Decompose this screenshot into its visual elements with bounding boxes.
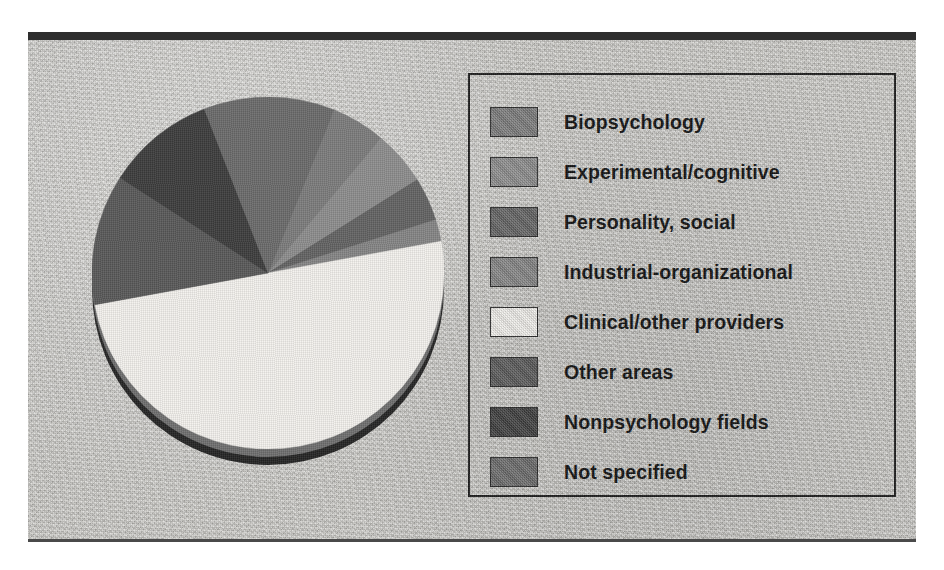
legend-swatch-icon bbox=[490, 307, 538, 337]
pie-chart bbox=[70, 75, 450, 465]
legend-swatch-icon bbox=[490, 157, 538, 187]
legend-item: Experimental/cognitive bbox=[490, 147, 884, 197]
legend: BiopsychologyExperimental/cognitivePerso… bbox=[468, 73, 896, 497]
top-rule bbox=[28, 32, 916, 40]
legend-item: Nonpsychology fields bbox=[490, 397, 884, 447]
legend-item-label: Industrial-organizational bbox=[564, 261, 793, 284]
legend-swatch-icon bbox=[490, 457, 538, 487]
legend-item-list: BiopsychologyExperimental/cognitivePerso… bbox=[490, 97, 884, 497]
legend-item-label: Clinical/other providers bbox=[564, 311, 784, 334]
legend-item-label: Experimental/cognitive bbox=[564, 161, 780, 184]
legend-item: Personality, social bbox=[490, 197, 884, 247]
legend-item-label: Personality, social bbox=[564, 211, 736, 234]
legend-item-label: Not specified bbox=[564, 461, 688, 484]
legend-item: Biopsychology bbox=[490, 97, 884, 147]
legend-item: Clinical/other providers bbox=[490, 297, 884, 347]
legend-swatch-icon bbox=[490, 207, 538, 237]
legend-item: Industrial-organizational bbox=[490, 247, 884, 297]
legend-swatch-icon bbox=[490, 107, 538, 137]
legend-item: Not specified bbox=[490, 447, 884, 497]
figure-plate: BiopsychologyExperimental/cognitivePerso… bbox=[28, 40, 916, 539]
figure-root: BiopsychologyExperimental/cognitivePerso… bbox=[0, 0, 944, 570]
legend-item-label: Other areas bbox=[564, 361, 674, 384]
legend-item: Other areas bbox=[490, 347, 884, 397]
legend-swatch-icon bbox=[490, 357, 538, 387]
pie-slices bbox=[92, 97, 444, 449]
legend-swatch-icon bbox=[490, 407, 538, 437]
bottom-rule bbox=[28, 539, 916, 542]
legend-swatch-icon bbox=[490, 257, 538, 287]
legend-item-label: Biopsychology bbox=[564, 111, 705, 134]
legend-item-label: Nonpsychology fields bbox=[564, 411, 769, 434]
